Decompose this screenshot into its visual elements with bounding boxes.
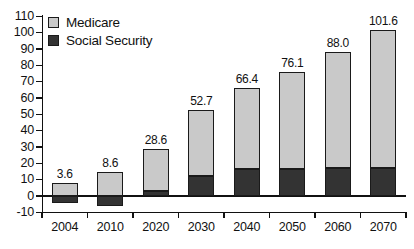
bar-value-label: 28.6 bbox=[130, 134, 182, 146]
y-axis-label: 20 bbox=[0, 157, 34, 170]
bar-value-label: 76.1 bbox=[266, 57, 318, 69]
legend-label-medicare: Medicare bbox=[66, 16, 120, 30]
legend-item-medicare: Medicare bbox=[48, 14, 152, 31]
bar-value-label: 66.4 bbox=[221, 73, 273, 85]
x-axis-tick bbox=[269, 212, 270, 218]
bar-segment-medicare bbox=[370, 30, 396, 168]
y-axis-line bbox=[42, 15, 43, 213]
x-axis-tick bbox=[178, 212, 179, 218]
x-axis-tick bbox=[87, 212, 88, 218]
y-axis-label: 80 bbox=[0, 59, 34, 72]
y-axis-label: 110 bbox=[0, 10, 34, 23]
bar-segment-social-security bbox=[143, 191, 169, 196]
legend-label-social-security: Social Security bbox=[66, 34, 152, 48]
x-axis-tick bbox=[405, 212, 406, 218]
medicare-swatch-icon bbox=[48, 17, 59, 28]
legend-item-social-security: Social Security bbox=[48, 32, 152, 49]
bar-segment-medicare bbox=[97, 172, 123, 196]
x-axis-label: 2010 bbox=[84, 221, 136, 234]
bar-segment-social-security bbox=[234, 169, 260, 196]
bar-segment-social-security bbox=[279, 169, 305, 196]
x-axis-tick bbox=[132, 212, 133, 218]
x-axis-label: 2030 bbox=[175, 221, 227, 234]
x-axis-tick bbox=[223, 212, 224, 218]
y-axis-label: 90 bbox=[0, 43, 34, 56]
bar-chart: -100102030405060708090100110 3.68.628.65… bbox=[0, 0, 414, 249]
y-axis-label: 40 bbox=[0, 124, 34, 137]
x-axis-tick bbox=[360, 212, 361, 218]
x-axis-label: 2050 bbox=[266, 221, 318, 234]
bar-segment-social-security bbox=[188, 176, 214, 196]
social-security-swatch-icon bbox=[48, 35, 59, 46]
bar-segment-social-security bbox=[325, 168, 351, 196]
bar-segment-medicare bbox=[52, 183, 78, 196]
x-axis-tick bbox=[314, 212, 315, 218]
bar-value-label: 88.0 bbox=[312, 37, 364, 49]
y-axis-label: 0 bbox=[0, 190, 34, 203]
bar-segment-social-security bbox=[52, 196, 78, 203]
y-axis-label: -10 bbox=[0, 206, 34, 219]
x-axis-label: 2020 bbox=[130, 221, 182, 234]
bar-segment-medicare bbox=[143, 149, 169, 191]
bar-value-label: 101.6 bbox=[357, 15, 409, 27]
x-axis-label: 2004 bbox=[39, 221, 91, 234]
bar-segment-medicare bbox=[188, 110, 214, 176]
x-axis-label: 2040 bbox=[221, 221, 273, 234]
bar-segment-medicare bbox=[325, 52, 351, 168]
y-axis-label: 60 bbox=[0, 92, 34, 105]
x-axis-label: 2070 bbox=[357, 221, 409, 234]
y-axis-label: 30 bbox=[0, 141, 34, 154]
bar-segment-medicare bbox=[234, 88, 260, 170]
y-axis-label: 70 bbox=[0, 75, 34, 88]
x-axis-label: 2060 bbox=[312, 221, 364, 234]
legend: Medicare Social Security bbox=[48, 14, 152, 50]
bar-segment-social-security bbox=[370, 168, 396, 196]
y-axis-label: 10 bbox=[0, 173, 34, 186]
x-axis-tick bbox=[41, 212, 42, 218]
bar-value-label: 52.7 bbox=[175, 95, 227, 107]
y-axis-label: 100 bbox=[0, 26, 34, 39]
bar-value-label: 8.6 bbox=[84, 157, 136, 169]
bar-segment-social-security bbox=[97, 196, 123, 206]
y-axis-label: 50 bbox=[0, 108, 34, 121]
bar-value-label: 3.6 bbox=[39, 168, 91, 180]
bar-segment-medicare bbox=[279, 72, 305, 169]
